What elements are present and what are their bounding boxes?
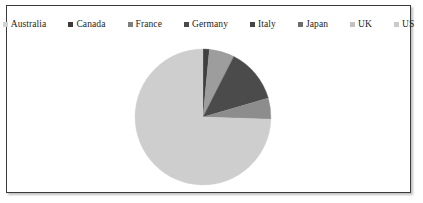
pie-chart xyxy=(133,47,273,187)
chart-frame: Australia Canada France Germany Italy Ja… xyxy=(6,5,411,193)
pie-slice-group xyxy=(135,49,271,185)
pie-chart-area xyxy=(7,6,410,192)
